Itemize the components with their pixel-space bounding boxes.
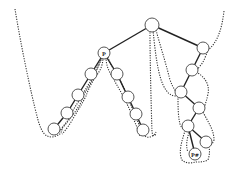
nodes-group: PP# xyxy=(48,18,212,160)
tree-node-l3 xyxy=(61,107,73,119)
node-label-p: P xyxy=(102,51,106,57)
tree-node-l2 xyxy=(72,89,84,101)
tree-node-b3 xyxy=(175,86,187,98)
tree-node-root xyxy=(145,18,159,32)
node-label-phash: P# xyxy=(191,152,199,158)
edge-root-p xyxy=(104,25,152,53)
tree-node-l1 xyxy=(85,68,97,80)
tree-node-r3 xyxy=(130,108,142,120)
contour-root-down-3 xyxy=(156,30,178,94)
tree-node-b5 xyxy=(182,120,194,132)
tree-node-r1 xyxy=(111,68,123,80)
contour-root-down-2 xyxy=(153,30,178,96)
traversal-contour-group xyxy=(15,9,224,163)
tree-node-b1 xyxy=(197,42,209,54)
tree-node-l4 xyxy=(48,123,60,135)
outer-contour-right-top xyxy=(194,11,224,74)
tree-node-b4 xyxy=(193,102,205,114)
tree-node-b6 xyxy=(200,136,212,148)
tree-diagram: PP# xyxy=(0,0,236,173)
tree-node-r2 xyxy=(122,91,134,103)
tree-node-r4 xyxy=(137,124,149,136)
tree-node-b2 xyxy=(186,64,198,76)
